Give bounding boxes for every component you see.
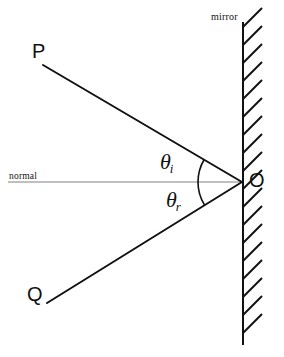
mirror-hatch-line	[243, 296, 262, 315]
mirror-hatch-line	[243, 8, 262, 27]
mirror-hatch-line	[243, 44, 262, 63]
mirror-hatch-line	[243, 116, 262, 135]
mirror-hatch-line	[243, 278, 262, 297]
mirror-hatch-line	[243, 260, 262, 279]
mirror-hatch-line	[243, 206, 262, 225]
mirror-hatch-line	[243, 80, 262, 99]
reflected-ray-line	[47, 182, 242, 303]
mirror-hatch-line	[243, 134, 262, 153]
mirror-hatch-line	[243, 314, 262, 333]
mirror-hatch-line	[243, 26, 262, 45]
mirror-label: mirror	[211, 12, 238, 22]
normal-label: normal	[9, 172, 37, 182]
point-p-label: P	[32, 41, 45, 61]
mirror-hatch-line	[243, 242, 262, 261]
point-q-label: Q	[27, 284, 43, 304]
theta-incident-label: θi	[160, 151, 173, 175]
theta-reflected-label: θr	[166, 189, 181, 213]
incident-ray-line	[43, 65, 242, 182]
angle-of-incidence-arc	[198, 160, 204, 182]
theta-reflected-subscript: r	[176, 199, 181, 214]
theta-incident-subscript: i	[170, 161, 174, 176]
mirror-hatch-line	[243, 98, 262, 117]
point-o-label: O	[249, 170, 265, 190]
reflection-diagram: mirror normal P Q O θi θr	[0, 0, 284, 357]
angle-of-reflection-arc	[198, 182, 205, 205]
mirror-hatch-line	[243, 224, 262, 243]
mirror-hatch-line	[243, 62, 262, 81]
